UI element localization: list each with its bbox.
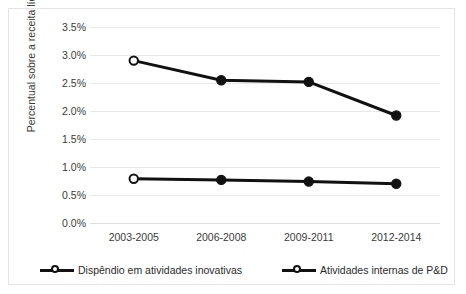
legend-label: Dispêndio em atividades inovativas [78,264,242,276]
series-1 [130,56,401,120]
y-axis-tick-label: 2.0% [40,106,86,117]
legend-label: Atividades internas de P&D [320,264,448,276]
y-axis-tick-label: 1.0% [40,162,86,173]
series-2 [130,175,401,189]
data-point-marker [304,177,313,186]
data-point-marker [304,77,313,86]
y-axis-tick-label: 1.5% [40,134,86,145]
data-point-marker [217,175,226,184]
data-point-marker [130,56,138,64]
data-point-marker [217,76,226,85]
x-axis-tick-label: 2009-2011 [264,231,354,243]
y-axis-tick-label: 0.5% [40,190,86,201]
x-axis-tick-label: 2012-2014 [351,231,441,243]
y-axis-tick-label: 2.5% [40,78,86,89]
legend-marker-icon [282,263,316,277]
series-layer [90,27,440,223]
y-axis-tick-labels: 0.0%0.5%1.0%1.5%2.0%2.5%3.0%3.5% [36,27,86,223]
legend-marker-icon [40,263,74,277]
data-point-marker [392,111,401,120]
x-axis-tick-label: 2003-2005 [89,231,179,243]
chart-figure: Percentual sobre a receita líquida 0.0%0… [0,0,466,294]
gridline [90,223,440,224]
legend-item-1[interactable]: Dispêndio em atividades inovativas [40,263,242,277]
data-point-marker [392,179,401,188]
series-line [134,61,397,116]
y-axis-tick-label: 3.5% [40,22,86,33]
series-line [134,179,397,184]
legend-item-2[interactable]: Atividades internas de P&D [282,263,448,277]
plot-area [90,27,440,223]
y-axis-tick-label: 0.0% [40,218,86,229]
x-axis-tick-labels: 2003-20052006-20082009-20112012-2014 [90,231,440,249]
y-axis-tick-label: 3.0% [40,50,86,61]
chart-legend: Dispêndio em atividades inovativasAtivid… [40,259,440,281]
data-point-marker [130,175,138,183]
x-axis-tick-label: 2006-2008 [176,231,266,243]
